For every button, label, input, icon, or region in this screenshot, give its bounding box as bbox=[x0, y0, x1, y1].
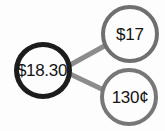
node-part-cents-label: 130¢ bbox=[112, 89, 149, 106]
node-part-dollars-label: $17 bbox=[116, 26, 144, 43]
diagram-canvas: $18.30 $17 130¢ bbox=[0, 0, 165, 131]
edge-total-part-a bbox=[70, 44, 108, 65]
node-total-amount[interactable]: $18.30 bbox=[14, 42, 72, 99]
node-part-dollars[interactable]: $17 bbox=[101, 5, 159, 63]
node-total-label: $18.30 bbox=[17, 62, 67, 79]
node-part-cents[interactable]: 130¢ bbox=[100, 68, 158, 126]
